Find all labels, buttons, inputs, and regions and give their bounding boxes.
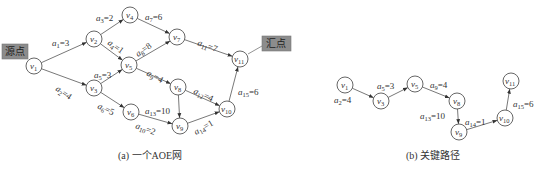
- node-v2: v2: [86, 31, 102, 47]
- edge-label: a15=6: [513, 99, 534, 110]
- sink-tag-label: 汇点: [266, 37, 286, 49]
- edge-label: a2=4: [334, 95, 352, 106]
- caption-b: (b) 关键路径: [406, 149, 460, 162]
- caption-a: (a) 一个AOE网: [118, 150, 182, 162]
- edge-v10-v11: [506, 89, 509, 110]
- node-v9: v9: [451, 124, 467, 140]
- edge-label: a1=3: [52, 38, 70, 49]
- edge-label: a13=10: [420, 111, 446, 122]
- source-tag: 源点: [2, 44, 28, 59]
- edge-v8-v9: [178, 95, 179, 118]
- node-v9: v9: [172, 118, 188, 134]
- node-v10: v10: [219, 101, 235, 117]
- edge-label: a9=4: [430, 80, 448, 91]
- node-v3: v3: [373, 93, 389, 109]
- node-v11: v11: [503, 73, 519, 89]
- edge-label: a5=3: [377, 81, 395, 92]
- edge-label: a2=4: [53, 83, 74, 102]
- critical-path-diagram: a2=4a5=3a9=4a13=10a14=1a15=6 v1v3v5v8v9v…: [334, 73, 534, 162]
- edge-v1-v3: [42, 69, 87, 85]
- edge-label: a5=3: [94, 70, 112, 81]
- edge-label: a14=1: [465, 117, 486, 128]
- nodes: v1v3v5v8v9v10v11: [337, 73, 519, 140]
- node-v11: v11: [232, 51, 248, 67]
- node-v4: v4: [122, 7, 138, 23]
- node-v1: v1: [26, 58, 42, 74]
- node-v5: v5: [407, 76, 423, 92]
- edge-label: a4=1: [105, 37, 126, 56]
- edge-label: a9=4: [145, 68, 166, 86]
- nodes: v1v2v3v4v5v6v7v8v9v10v11: [26, 7, 248, 134]
- edge-label: a13=10: [145, 106, 171, 117]
- edge-label: a11=7: [196, 37, 219, 54]
- source-tag-label: 源点: [5, 45, 25, 57]
- edge-v10-v11: [229, 67, 238, 102]
- node-v3: v3: [86, 80, 102, 96]
- node-v7: v7: [169, 29, 185, 45]
- node-v5: v5: [121, 57, 137, 73]
- node-v1: v1: [337, 77, 353, 93]
- edge-v1-v3: [352, 88, 373, 98]
- aoe-network-diagram: a1=3a2=4a3=2a4=1a5=3a6=5a7=6a8=8a9=4a10=…: [2, 7, 291, 162]
- node-v8: v8: [449, 93, 465, 109]
- edge-label: a7=6: [145, 12, 163, 23]
- node-v10: v10: [497, 110, 513, 126]
- edge-label: a3=2: [96, 13, 113, 24]
- node-v8: v8: [170, 79, 186, 95]
- edge-v8-v9: [458, 109, 459, 124]
- node-v6: v6: [123, 104, 139, 120]
- edges: a1=3a2=4a3=2a4=1a5=3a6=5a7=6a8=8a9=4a10=…: [41, 12, 259, 138]
- sink-tag: 汇点: [248, 36, 291, 54]
- edge-label: a6=5: [96, 101, 117, 119]
- edge-label: a15=6: [238, 87, 259, 98]
- edge-label: a10=2: [134, 120, 157, 137]
